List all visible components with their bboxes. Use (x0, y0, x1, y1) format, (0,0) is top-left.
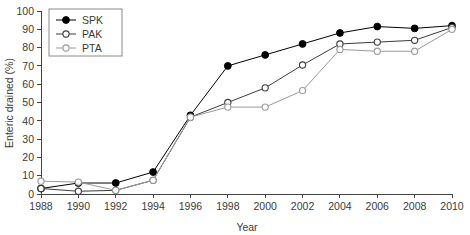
data-point-marker (412, 37, 418, 43)
x-axis-tick-label: 2006 (366, 200, 390, 212)
chart-legend: SPKPAKPTA (49, 9, 122, 56)
x-axis-tick-label: 2004 (328, 200, 352, 212)
x-axis-tick-label: 2008 (403, 200, 427, 212)
legend-label: PAK (82, 28, 102, 40)
y-axis: 0102030405060708090100 (16, 5, 41, 200)
data-point-marker (113, 187, 119, 193)
data-point-marker (187, 114, 193, 120)
data-point-marker (112, 180, 119, 187)
x-axis-tick-label: 1992 (104, 200, 128, 212)
data-point-marker (374, 39, 380, 45)
data-point-marker (449, 26, 455, 32)
y-axis-tick-label: 90 (22, 23, 34, 35)
y-axis-tick-label: 30 (22, 133, 34, 145)
data-point-marker (411, 25, 418, 32)
x-axis-tick-label: 1996 (179, 200, 203, 212)
data-point-marker (374, 23, 381, 30)
x-axis-tick-label: 1994 (141, 200, 165, 212)
data-point-marker (224, 63, 231, 70)
data-point-marker (225, 104, 231, 110)
data-point-marker (75, 188, 81, 194)
chart-container: 0102030405060708090100 19881990199219941… (0, 0, 470, 235)
data-point-marker (412, 48, 418, 54)
data-point-marker (262, 104, 268, 110)
y-axis-tick-label: 100 (16, 5, 34, 17)
y-axis-tick-label: 50 (22, 96, 34, 108)
y-axis-tick-label: 20 (22, 151, 34, 163)
x-axis-tick-label: 2000 (254, 200, 278, 212)
x-axis-tick-label: 1990 (67, 200, 91, 212)
data-point-marker (38, 178, 44, 184)
data-point-marker (374, 48, 380, 54)
x-axis-tick-label: 2002 (291, 200, 315, 212)
legend-label: PTA (82, 42, 102, 54)
legend-label: SPK (82, 14, 103, 26)
data-point-marker (299, 88, 305, 94)
x-axis-tick-label: 1988 (29, 200, 53, 212)
y-axis-tick-label: 0 (28, 188, 34, 200)
y-axis-title: Enteric drained (%) (3, 58, 15, 148)
y-axis-tick-label: 60 (22, 78, 34, 90)
data-point-marker (38, 185, 44, 191)
data-point-marker (75, 179, 81, 185)
data-point-marker (262, 52, 269, 59)
line-chart: 0102030405060708090100 19881990199219941… (0, 0, 470, 235)
x-axis-tick-label: 2010 (440, 200, 464, 212)
data-point-marker (299, 62, 305, 68)
data-point-marker (150, 177, 156, 183)
data-point-marker (262, 85, 268, 91)
data-point-marker (299, 41, 306, 48)
data-point-marker (337, 46, 343, 52)
y-axis-tick-label: 70 (22, 60, 34, 72)
data-point-marker (150, 169, 157, 176)
x-axis: 1988199019921994199619982000200220042006… (29, 194, 464, 212)
data-point-marker (337, 30, 344, 37)
y-axis-tick-label: 80 (22, 41, 34, 53)
y-axis-tick-label: 10 (22, 169, 34, 181)
x-axis-title: Year (236, 221, 258, 233)
x-axis-tick-label: 1998 (216, 200, 240, 212)
y-axis-tick-label: 40 (22, 115, 34, 127)
